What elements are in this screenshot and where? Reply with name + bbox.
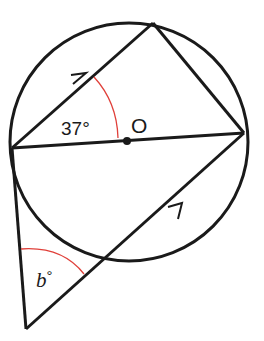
geometry-diagram: O 37° b° xyxy=(0,0,264,341)
angle-arc-b xyxy=(21,249,84,274)
angle-b-label: b° xyxy=(36,267,53,292)
parallel-arrow-lower-icon xyxy=(168,203,182,219)
angle-b-variable: b xyxy=(36,268,47,292)
center-label: O xyxy=(131,114,147,137)
parallel-arrow-upper-icon xyxy=(71,73,86,84)
angle-arc-37 xyxy=(94,77,118,138)
angle-b-degree: ° xyxy=(47,267,53,284)
secant-line xyxy=(26,133,244,329)
center-point xyxy=(123,137,131,145)
angle-37-label: 37° xyxy=(61,118,90,139)
tangent-line xyxy=(12,148,26,329)
